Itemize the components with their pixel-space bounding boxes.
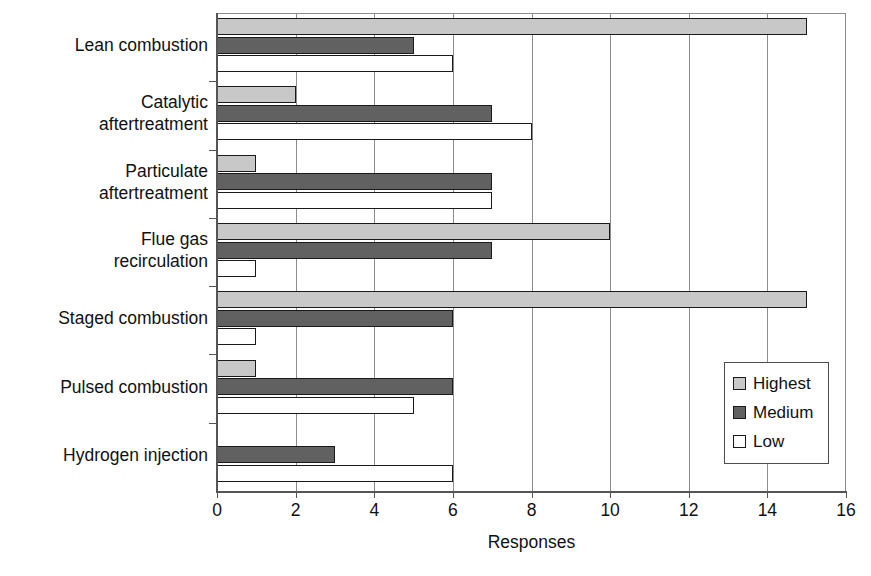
x-tick-2: [296, 491, 297, 498]
x-tick-6: [453, 491, 454, 498]
x-tick-label-6: 6: [433, 500, 473, 521]
category-label-1: Catalyticaftertreatment: [5, 91, 208, 135]
gridline-12: [689, 14, 690, 491]
category-label-line: recirculation: [5, 250, 208, 272]
y-category-tick-1: [209, 81, 217, 82]
bar-highest-5: [217, 360, 256, 377]
bar-low-6: [217, 465, 453, 482]
bar-medium-6: [217, 446, 335, 463]
legend-item-low[interactable]: Low: [733, 427, 820, 456]
x-tick-label-10: 10: [590, 500, 630, 521]
category-label-line: Staged combustion: [5, 307, 208, 329]
x-tick-label-14: 14: [747, 500, 787, 521]
y-axis-line: [216, 13, 218, 491]
x-tick-0: [217, 491, 218, 498]
bar-low-2: [217, 192, 492, 209]
y-category-tick-2: [209, 150, 217, 151]
legend-item-medium[interactable]: Medium: [733, 398, 820, 427]
legend-swatch-highest-icon: [733, 377, 746, 390]
category-label-4: Staged combustion: [5, 307, 208, 329]
x-tick-4: [374, 491, 375, 498]
legend-swatch-medium-icon: [733, 406, 746, 419]
category-label-2: Particulateaftertreatment: [5, 160, 208, 204]
category-label-line: Catalytic: [5, 91, 208, 113]
category-label-3: Flue gasrecirculation: [5, 228, 208, 272]
legend: Highest Medium Low: [724, 362, 829, 464]
category-label-line: aftertreatment: [5, 182, 208, 204]
x-tick-12: [689, 491, 690, 498]
x-tick-label-2: 2: [276, 500, 316, 521]
bar-low-5: [217, 397, 414, 414]
y-category-tick-5: [209, 354, 217, 355]
category-label-line: Lean combustion: [5, 34, 208, 56]
x-axis-title: Responses: [217, 532, 846, 553]
category-label-line: aftertreatment: [5, 113, 208, 135]
gridline-10: [610, 14, 611, 491]
y-category-tick-3: [209, 218, 217, 219]
gridline-8: [532, 14, 533, 491]
category-label-line: Hydrogen injection: [5, 444, 208, 466]
bar-highest-3: [217, 223, 610, 240]
x-tick-label-8: 8: [512, 500, 552, 521]
bar-highest-2: [217, 155, 256, 172]
bar-medium-5: [217, 378, 453, 395]
bar-medium-4: [217, 310, 453, 327]
bar-highest-1: [217, 86, 296, 103]
x-tick-label-4: 4: [354, 500, 394, 521]
y-category-tick-6: [209, 423, 217, 424]
bar-highest-0: [217, 18, 807, 35]
x-tick-10: [610, 491, 611, 498]
legend-item-highest[interactable]: Highest: [733, 369, 820, 398]
bar-low-3: [217, 260, 256, 277]
x-tick-label-0: 0: [197, 500, 237, 521]
legend-label-highest: Highest: [753, 374, 811, 394]
category-label-6: Hydrogen injection: [5, 444, 208, 466]
x-tick-label-12: 12: [669, 500, 709, 521]
bar-medium-3: [217, 242, 492, 259]
bar-low-4: [217, 328, 256, 345]
x-tick-8: [532, 491, 533, 498]
bar-medium-2: [217, 173, 492, 190]
bar-low-0: [217, 55, 453, 72]
x-tick-label-16: 16: [826, 500, 866, 521]
legend-swatch-low-icon: [733, 435, 746, 448]
category-label-0: Lean combustion: [5, 34, 208, 56]
category-label-5: Pulsed combustion: [5, 376, 208, 398]
x-tick-14: [767, 491, 768, 498]
legend-label-medium: Medium: [753, 403, 813, 423]
category-label-line: Flue gas: [5, 228, 208, 250]
bar-medium-1: [217, 105, 492, 122]
bar-chart: Lean combustionCatalyticaftertreatmentPa…: [0, 0, 871, 576]
category-label-line: Pulsed combustion: [5, 376, 208, 398]
category-label-line: Particulate: [5, 160, 208, 182]
bar-low-1: [217, 123, 532, 140]
legend-label-low: Low: [753, 432, 784, 452]
x-tick-16: [846, 491, 847, 498]
y-category-tick-4: [209, 286, 217, 287]
bar-highest-4: [217, 291, 807, 308]
bar-medium-0: [217, 37, 414, 54]
